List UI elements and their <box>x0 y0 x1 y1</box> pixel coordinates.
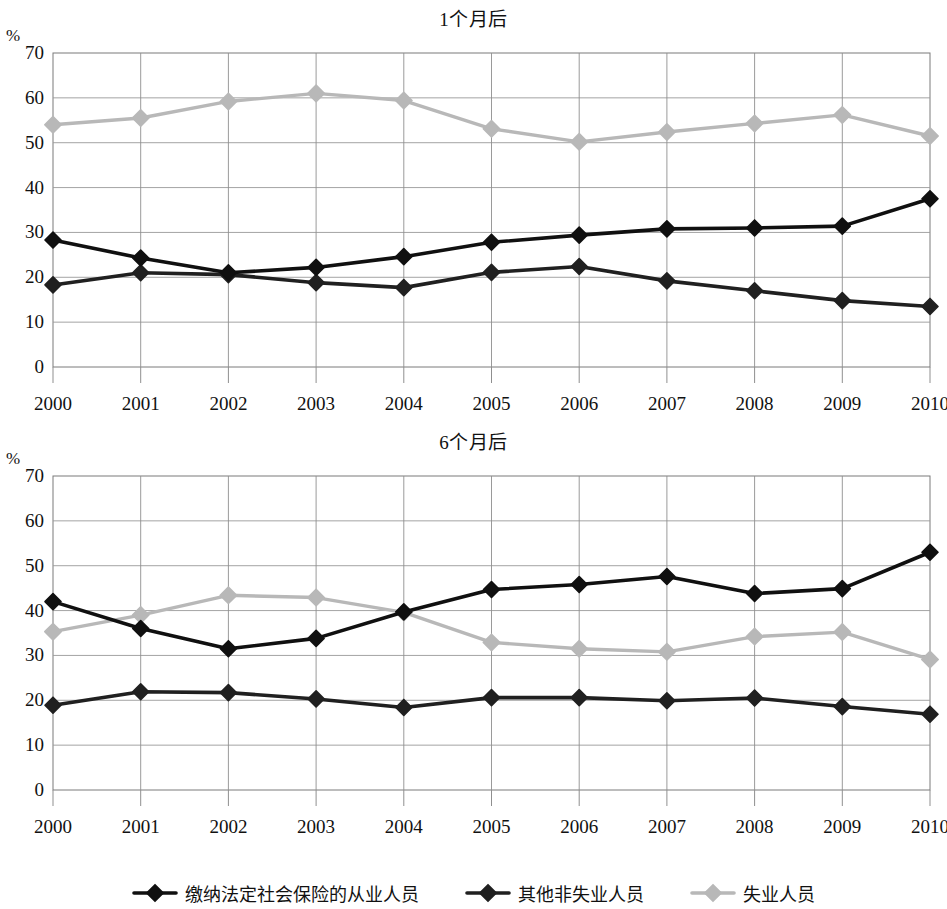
data-point-marker <box>659 273 675 289</box>
data-point-marker <box>659 568 675 584</box>
data-point-marker <box>45 623 61 639</box>
data-point-marker <box>922 544 938 560</box>
data-point-marker <box>747 690 763 706</box>
y-axis-tick-label: 0 <box>0 357 44 376</box>
x-axis-tick-label: 2005 <box>457 394 527 413</box>
data-point-marker <box>484 234 500 250</box>
data-point-marker <box>308 259 324 275</box>
x-axis-tick-label: 2004 <box>369 817 439 836</box>
x-axis-tick-label: 2009 <box>807 394 877 413</box>
data-point-marker <box>133 250 149 266</box>
y-axis-tick-label: 50 <box>0 133 44 152</box>
data-point-marker <box>746 628 762 644</box>
data-point-marker <box>484 264 500 280</box>
x-axis-tick-label: 2010 <box>895 817 947 836</box>
plot-svg-1 <box>0 0 947 420</box>
chart-panel-1-month: 1个月后 % 010203040506070 20002001200220032… <box>0 0 947 420</box>
x-axis-tick-label: 2010 <box>895 394 947 413</box>
plot-svg-2 <box>0 423 947 843</box>
data-point-marker <box>922 298 938 314</box>
x-axis-tick-label: 2005 <box>457 817 527 836</box>
legend-item: 其他非失业人员 <box>465 880 644 906</box>
x-axis-tick-label: 2007 <box>632 394 702 413</box>
data-point-marker <box>220 587 236 603</box>
x-axis-tick-label: 2009 <box>807 817 877 836</box>
data-point-marker <box>220 641 236 657</box>
data-point-marker <box>659 693 675 709</box>
x-axis-tick-label: 2006 <box>544 394 614 413</box>
data-point-marker <box>834 699 850 715</box>
data-point-marker <box>571 641 587 657</box>
x-axis-tick-label: 2007 <box>632 817 702 836</box>
data-point-marker <box>484 581 500 597</box>
data-point-marker <box>45 697 61 713</box>
y-axis-tick-label: 10 <box>0 312 44 331</box>
data-point-marker <box>834 218 850 234</box>
data-point-marker <box>308 85 324 101</box>
y-axis-tick-label: 40 <box>0 601 44 620</box>
y-axis-tick-label: 40 <box>0 178 44 197</box>
data-point-marker <box>396 280 412 296</box>
data-point-marker <box>834 581 850 597</box>
data-point-marker <box>746 115 762 131</box>
chart-legend: 缴纳法定社会保险的从业人员其他非失业人员失业人员 <box>0 876 947 909</box>
data-point-marker <box>747 220 763 236</box>
data-point-marker <box>922 191 938 207</box>
legend-marker-icon <box>465 883 511 903</box>
x-axis-tick-label: 2000 <box>18 394 88 413</box>
data-point-marker <box>133 265 149 281</box>
data-point-marker <box>133 621 149 637</box>
data-point-marker <box>220 685 236 701</box>
data-point-marker <box>308 630 324 646</box>
data-point-marker <box>308 589 324 605</box>
y-axis-tick-label: 60 <box>0 511 44 530</box>
y-axis-tick-label: 70 <box>0 466 44 485</box>
data-point-marker <box>220 93 236 109</box>
data-point-marker <box>396 249 412 265</box>
y-axis-tick-label: 30 <box>0 222 44 241</box>
data-point-marker <box>571 577 587 593</box>
legend-marker-icon <box>132 883 178 903</box>
data-point-marker <box>834 293 850 309</box>
legend-marker-icon <box>690 883 736 903</box>
data-point-marker <box>659 124 675 140</box>
data-point-marker <box>922 651 938 667</box>
figure-root: 1个月后 % 010203040506070 20002001200220032… <box>0 0 947 909</box>
data-point-marker <box>396 92 412 108</box>
data-point-marker <box>220 265 236 281</box>
legend-item-label: 失业人员 <box>743 880 815 906</box>
data-point-marker <box>659 221 675 237</box>
y-axis-tick-label: 20 <box>0 267 44 286</box>
x-axis-tick-label: 2003 <box>281 394 351 413</box>
data-point-marker <box>133 110 149 126</box>
data-point-marker <box>45 232 61 248</box>
data-point-marker <box>571 259 587 275</box>
plot-area-1: 010203040506070 200020012002200320042005… <box>0 0 947 420</box>
x-axis-tick-label: 2004 <box>369 394 439 413</box>
data-point-marker <box>396 699 412 715</box>
data-point-marker <box>484 690 500 706</box>
data-point-marker <box>45 277 61 293</box>
data-point-marker <box>571 227 587 243</box>
legend-item-label: 其他非失业人员 <box>518 880 644 906</box>
y-axis-tick-label: 60 <box>0 88 44 107</box>
x-axis-tick-label: 2008 <box>720 394 790 413</box>
x-axis-tick-label: 2002 <box>193 394 263 413</box>
y-axis-tick-label: 70 <box>0 43 44 62</box>
y-axis-tick-label: 10 <box>0 735 44 754</box>
data-point-marker <box>922 706 938 722</box>
y-axis-tick-label: 20 <box>0 690 44 709</box>
x-axis-tick-label: 2002 <box>193 817 263 836</box>
legend-item: 缴纳法定社会保险的从业人员 <box>132 880 419 906</box>
data-point-marker <box>922 128 938 144</box>
plot-area-2: 010203040506070 200020012002200320042005… <box>0 423 947 843</box>
chart-panel-6-month: 6个月后 % 010203040506070 20002001200220032… <box>0 423 947 843</box>
legend-item-label: 缴纳法定社会保险的从业人员 <box>185 880 419 906</box>
data-point-marker <box>747 283 763 299</box>
x-axis-tick-label: 2000 <box>18 817 88 836</box>
data-point-marker <box>483 634 499 650</box>
y-axis-tick-label: 0 <box>0 780 44 799</box>
y-axis-tick-label: 30 <box>0 645 44 664</box>
data-point-marker <box>308 691 324 707</box>
data-point-marker <box>834 624 850 640</box>
